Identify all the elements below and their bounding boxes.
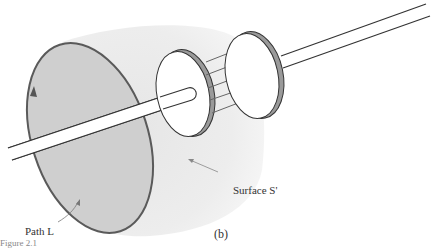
subfigure-label: (b) [214,227,228,242]
wire-right [281,4,430,68]
figure-caption: Figure 2.1 [0,238,37,248]
path-l-label: Path L [25,225,54,237]
surface-s-prime-label: Surface S' [233,184,277,196]
